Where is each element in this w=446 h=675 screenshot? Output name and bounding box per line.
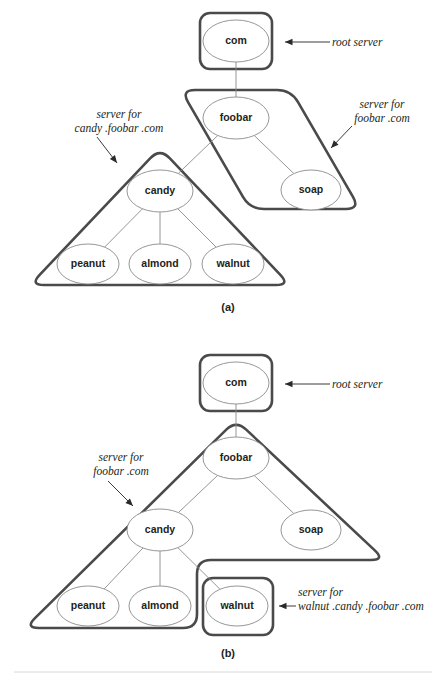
edge-a-candy-peanut [105,209,143,247]
edge-b-candy-peanut [104,548,143,589]
callout-label-b-root-server: root server [332,378,383,390]
callout-line: server for [96,108,142,121]
node-label-a-candy: candy [145,184,176,196]
edge-b-candy-walnut [178,548,220,590]
callout-line: foobar .com [93,465,149,478]
node-label-b-walnut: walnut [219,599,254,611]
callout-arrowhead-a-root-server [285,39,293,45]
callout-line: server for [359,98,405,111]
callout-label-a-root-server: root server [332,36,383,48]
node-label-a-peanut: peanut [71,257,106,269]
callout-line: root server [332,36,383,48]
callout-arrowhead-b-server-for-walnut-candy-foobar-com [279,603,287,609]
edge-a-candy-walnut [178,209,216,247]
diagram-layer: comfoobarsoapcandypeanutalmondwalnutroot… [14,13,432,672]
diagram-canvas: comfoobarsoapcandypeanutalmondwalnutroot… [0,0,446,675]
node-label-b-almond: almond [141,599,178,611]
node-label-a-foobar: foobar [220,111,253,123]
dns-zone-figure: comfoobarsoapcandypeanutalmondwalnutroot… [0,0,446,675]
callout-line: root server [332,378,383,390]
node-label-a-soap: soap [299,183,324,195]
node-label-b-com: com [225,376,247,388]
callout-label-b-server-for-foobar-com: server forfoobar .com [93,451,149,478]
node-label-b-soap: soap [299,523,324,535]
callout-label-a-server-for-candy-foobar-com: server forcandy .foobar .com [75,108,164,135]
panel-b: comfoobarsoapcandypeanutalmondwalnutroot… [31,355,424,659]
panel-caption-a: (a) [221,301,235,313]
callout-label-b-server-for-walnut-candy-foobar-com: server forwalnut .candy .foobar .com [298,586,424,613]
node-label-b-foobar: foobar [220,451,253,463]
node-label-a-walnut: walnut [215,257,250,269]
panel-a: comfoobarsoapcandypeanutalmondwalnutroot… [36,13,410,313]
node-label-b-peanut: peanut [71,599,106,611]
callout-line: server for [298,586,344,599]
edge-a-foobar-candy [178,136,218,174]
node-label-a-almond: almond [141,257,178,269]
node-label-a-com: com [225,34,247,46]
callout-arrowhead-b-root-server [285,381,293,387]
edge-b-foobar-soap [254,476,294,514]
callout-label-a-server-for-foobar-com: server forfoobar .com [354,98,410,125]
callout-line: candy .foobar .com [75,122,164,135]
callout-arrowhead-a-server-for-candy-foobar-com [110,155,117,163]
callout-line: server for [98,451,144,464]
edge-b-foobar-candy [178,475,217,512]
callout-line: walnut .candy .foobar .com [298,600,424,613]
callout-line: foobar .com [354,112,410,125]
edges-b [104,404,294,589]
edge-a-foobar-soap [254,136,294,174]
panel-caption-b: (b) [221,647,235,659]
node-label-b-candy: candy [145,523,176,535]
